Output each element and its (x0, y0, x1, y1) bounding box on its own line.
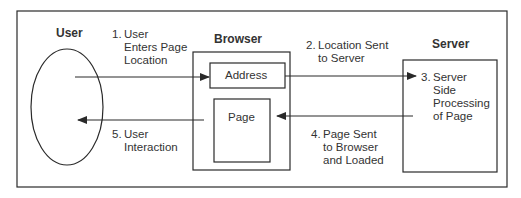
step-2-number: 2. (306, 39, 316, 52)
step-5-text: User Interaction (124, 128, 178, 154)
user-label: User (56, 27, 83, 40)
address-label: Address (225, 69, 267, 82)
step-4-number: 4. (311, 128, 321, 141)
step-3-number: 3. (421, 71, 431, 84)
user-ellipse (31, 49, 103, 165)
step-4-text: Page Sent to Browser and Loaded (323, 128, 384, 167)
browser-label: Browser (214, 33, 262, 46)
step-1-number: 1. (112, 28, 122, 41)
page-box (214, 99, 270, 162)
page-label: Page (228, 111, 255, 124)
step-2-text: Location Sent to Server (318, 39, 388, 65)
step-1-text: User Enters Page Location (124, 28, 187, 67)
step-3-text: Server Side Processing of Page (433, 71, 490, 123)
step-5-number: 5. (112, 128, 122, 141)
server-label: Server (432, 38, 469, 51)
